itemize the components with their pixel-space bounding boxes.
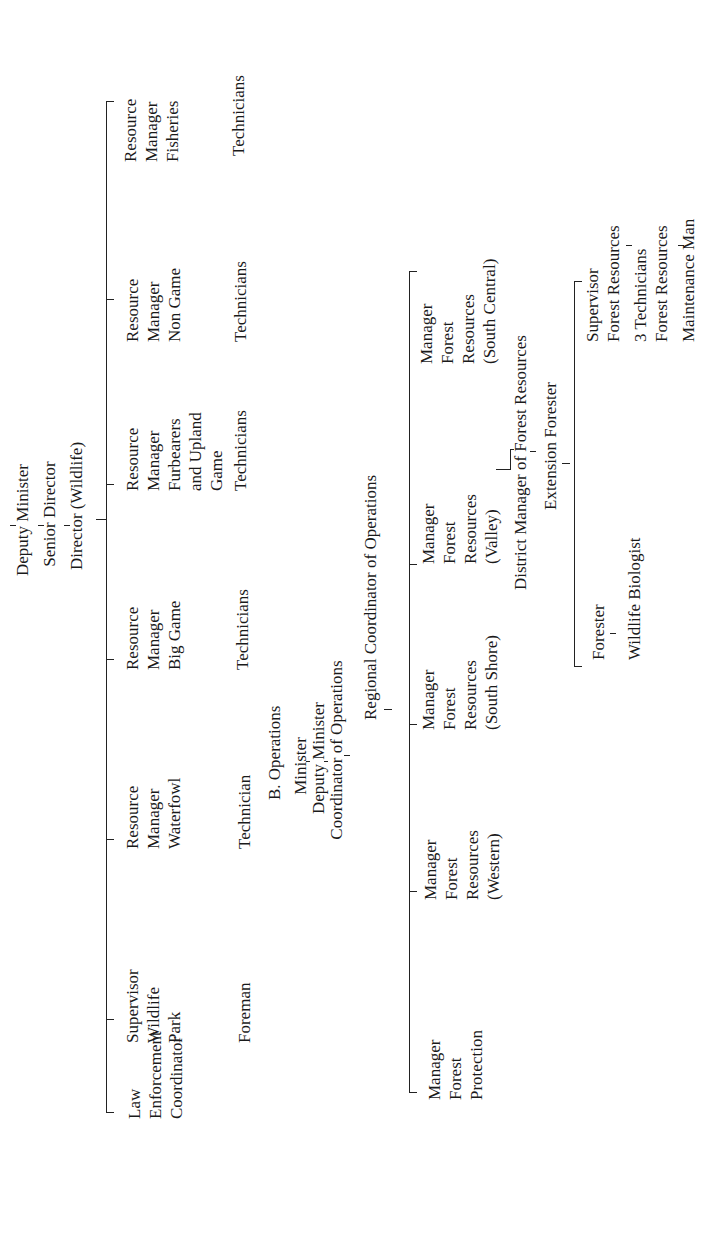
connector <box>496 469 510 470</box>
technicians-fisheries: Technicians <box>230 75 247 156</box>
connector <box>106 659 114 660</box>
connector <box>384 709 392 710</box>
forest-managers-bar <box>409 272 410 1093</box>
wildlife-biologist: Wildlife Biologist <box>626 537 643 660</box>
section-b-operations: B. Operations <box>266 706 283 800</box>
technicians-furbearers: Technicians <box>232 410 249 491</box>
connector <box>106 839 114 840</box>
connector <box>64 525 70 526</box>
technician-waterfowl: Technician <box>236 775 253 849</box>
manager-forest-resources-south-central: Manager Forest Resources (South Central) <box>418 259 498 364</box>
connector <box>344 755 350 756</box>
connector <box>409 271 417 272</box>
minister-label: Minister <box>292 646 309 886</box>
wildlife-bar <box>106 102 107 1113</box>
connector <box>324 761 328 762</box>
connector <box>106 1019 114 1020</box>
resource-manager-fisheries: Resource Manager Fisheries <box>122 99 181 162</box>
manager-forest-resources-south-shore: Manager Forest Resources (South Shore) <box>420 635 500 730</box>
connector <box>678 245 684 246</box>
forester: Forester <box>590 604 607 660</box>
senior-director-label: Senior Director <box>41 414 58 614</box>
connector <box>96 519 106 520</box>
deputy-minister-label: Deputy Minister <box>310 638 327 878</box>
connector <box>574 666 582 667</box>
connector <box>562 463 570 464</box>
connector <box>409 1092 417 1093</box>
supervisor-wildlife-park: Supervisor Wildlife Park <box>124 969 183 1043</box>
technicians-big-game: Technicians <box>234 589 251 670</box>
connector <box>38 525 44 526</box>
connector <box>409 891 417 892</box>
extension-forester: Extension Forester <box>542 382 559 510</box>
law-enforcement-coordinator: Law Enforcement Coordinator <box>126 1031 185 1119</box>
resource-manager-non-game: Resource Manager Non Game <box>124 268 183 342</box>
org-chart: Deputy Minister Senior Director Director… <box>0 0 723 1246</box>
operations-head: Minister Deputy Minister Coordinator of … <box>292 640 345 880</box>
connector <box>106 1112 114 1113</box>
connector <box>530 451 536 452</box>
resource-manager-waterfowl: Resource Manager Waterfowl <box>124 778 183 849</box>
connector <box>626 245 632 246</box>
connector <box>306 761 310 762</box>
resource-manager-big-game: Resource Manager Big Game <box>124 601 183 670</box>
connector <box>610 633 616 634</box>
connector <box>106 484 114 485</box>
resource-manager-furbearers: Resource Manager Furbearers and Upland G… <box>124 412 225 491</box>
connector <box>574 281 582 282</box>
supervisor-forest-resources: Supervisor Forest Resources 3 Technician… <box>584 219 697 342</box>
connector <box>106 299 114 300</box>
manager-forest-resources-valley: Manager Forest Resources (Valley) <box>420 494 500 564</box>
connector <box>106 101 114 102</box>
regional-coordinator: Regional Coordinator of Operations <box>362 475 379 720</box>
manager-forest-protection: Manager Forest Protection <box>426 1030 485 1100</box>
connector <box>10 525 16 526</box>
technicians-non-game: Technicians <box>232 261 249 342</box>
forester-bar <box>574 282 575 667</box>
director-wildlife-label: Director (Wildlife) <box>68 406 85 606</box>
district-manager-forest-resources: District Manager of Forest Resources <box>512 335 529 590</box>
coordinator-of-operations-label: Coordinator of Operations <box>328 630 345 870</box>
foreman: Foreman <box>236 983 253 1043</box>
connector <box>409 724 417 725</box>
wildlife-head: Deputy Minister Senior Director Director… <box>14 416 85 616</box>
deputy-minister-label: Deputy Minister <box>14 420 31 620</box>
connector <box>409 564 417 565</box>
manager-forest-resources-western: Manager Forest Resources (Western) <box>422 830 502 900</box>
